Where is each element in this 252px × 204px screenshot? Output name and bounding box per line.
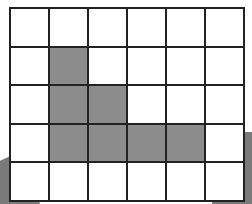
grid-cell-empty: [89, 163, 128, 202]
grid-cell-filled: [167, 125, 206, 164]
grid-cell-empty: [206, 125, 245, 164]
grid-cell-empty: [128, 163, 167, 202]
grid-cell-empty: [89, 48, 128, 87]
grid-cell-filled: [128, 125, 167, 164]
grid-cell-empty: [167, 86, 206, 125]
grid-cell-filled: [50, 86, 89, 125]
grid-cell-empty: [11, 9, 50, 48]
grid-cell-empty: [128, 9, 167, 48]
grid-cell-empty: [50, 9, 89, 48]
grid-cell-empty: [50, 163, 89, 202]
grid-cell-empty: [206, 9, 245, 48]
grid-cell-empty: [11, 163, 50, 202]
grid-cell-empty: [167, 163, 206, 202]
grid-cell-filled: [89, 125, 128, 164]
grid-cell-empty: [167, 48, 206, 87]
grid-cell-empty: [128, 48, 167, 87]
grid: [9, 7, 245, 202]
grid-cell-filled: [89, 86, 128, 125]
grid-cell-empty: [11, 48, 50, 87]
grid-cell-empty: [167, 9, 206, 48]
grid-cell-filled: [50, 125, 89, 164]
grid-cell-empty: [206, 86, 245, 125]
grid-cell-empty: [206, 163, 245, 202]
grid-cell-empty: [206, 48, 245, 87]
grid-cell-filled: [50, 48, 89, 87]
grid-cell-empty: [11, 86, 50, 125]
grid-cell-empty: [89, 9, 128, 48]
grid-cell-empty: [11, 125, 50, 164]
grid-cell-empty: [128, 86, 167, 125]
